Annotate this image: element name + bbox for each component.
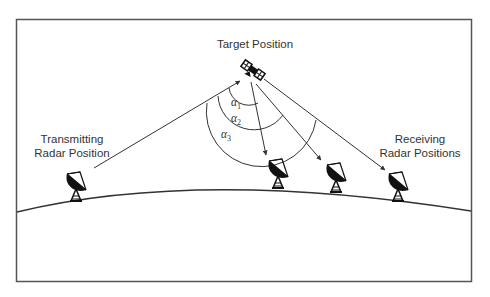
alpha-2-label: α2	[231, 111, 241, 130]
receiver-label-line1: Receiving	[375, 132, 465, 146]
receiver-label-line2: Radar Positions	[375, 146, 465, 160]
transmitter-radar-dish-icon	[66, 172, 86, 201]
transmitter-label-line1: Transmitting	[22, 132, 122, 146]
receiver-radar-dish-icon-3	[388, 172, 408, 201]
transmitter-label-line2: Radar Position	[22, 146, 122, 160]
receiver-radar-dish-icon-2	[326, 163, 346, 192]
angle-arc-2	[218, 96, 283, 130]
receiver-radar-dish-icon-1	[268, 159, 288, 188]
alpha-3-label: α3	[221, 127, 231, 146]
satellite-icon	[239, 60, 266, 84]
receive-ray-2	[256, 84, 321, 160]
receive-ray-3	[264, 79, 385, 170]
target-position-label: Target Position	[210, 37, 300, 51]
